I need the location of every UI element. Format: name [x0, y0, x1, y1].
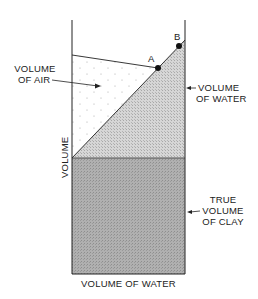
air-label: VOLUME OF AIR [10, 63, 60, 85]
point-a-marker [155, 65, 161, 71]
shrinkage-diagram: A B VOLUME OF AIR VOLUME OF WATER TRUE V… [0, 0, 258, 299]
clay-region [72, 158, 185, 274]
air-label-line2: OF AIR [10, 74, 60, 85]
water-arrowhead [186, 86, 191, 90]
water-label-line1: VOLUME [196, 82, 256, 93]
water-label-line2: OF WATER [196, 93, 256, 104]
clay-label-line3: OF CLAY [200, 216, 246, 227]
point-a-label: A [148, 53, 155, 64]
diagram-canvas [0, 0, 258, 299]
x-axis-label: VOLUME OF WATER [72, 278, 185, 289]
point-b-label: B [174, 31, 181, 42]
water-label-right: VOLUME OF WATER [196, 82, 256, 104]
point-b-marker [176, 43, 182, 49]
air-label-line1: VOLUME [10, 63, 60, 74]
clay-label: TRUE VOLUME OF CLAY [200, 194, 246, 227]
y-axis-label: VOLUME [59, 137, 70, 178]
clay-arrowhead [187, 210, 192, 214]
clay-label-line1: TRUE [200, 194, 246, 205]
clay-label-line2: VOLUME [200, 205, 246, 216]
